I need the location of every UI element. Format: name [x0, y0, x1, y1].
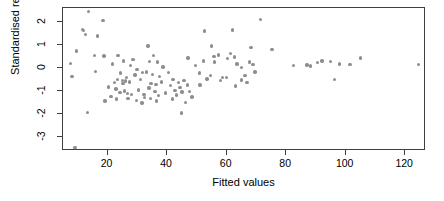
data-point: [164, 91, 167, 94]
data-point: [129, 64, 132, 67]
data-point: [209, 74, 212, 77]
data-point: [226, 57, 229, 60]
data-point: [142, 93, 145, 96]
data-point: [217, 53, 220, 56]
data-point: [149, 82, 152, 85]
data-point: [133, 73, 136, 76]
plot-area: [62, 7, 425, 150]
data-point: [203, 29, 206, 32]
x-tick-mark: [404, 150, 405, 155]
data-point: [175, 93, 178, 96]
data-point: [86, 111, 89, 114]
data-point: [169, 84, 172, 87]
data-point: [309, 64, 312, 67]
data-point: [178, 86, 181, 89]
data-point: [75, 49, 78, 52]
data-point: [118, 91, 121, 94]
data-point: [235, 62, 238, 65]
data-point: [122, 59, 125, 62]
y-tick-label: -2: [30, 108, 52, 118]
x-tick-mark: [285, 150, 286, 155]
y-tick-mark: [57, 90, 62, 91]
data-point: [160, 80, 163, 83]
data-point: [316, 61, 319, 64]
data-point: [119, 71, 122, 74]
data-point: [143, 96, 146, 99]
data-point: [171, 78, 174, 81]
data-point: [145, 70, 148, 73]
data-point: [253, 70, 256, 73]
data-point: [128, 80, 131, 83]
data-point: [154, 83, 157, 86]
data-point: [148, 60, 151, 63]
y-tick-label: -3: [30, 131, 52, 141]
data-point: [233, 55, 236, 58]
data-point: [173, 89, 176, 92]
x-tick-mark: [166, 150, 167, 155]
data-point: [320, 59, 323, 62]
y-tick-mark: [57, 67, 62, 68]
data-point: [259, 18, 262, 21]
x-tick-label: 80: [265, 157, 305, 169]
data-point: [153, 90, 156, 93]
x-tick-label: 40: [146, 157, 186, 169]
data-point: [180, 111, 183, 114]
data-point: [198, 71, 201, 74]
data-point: [126, 97, 129, 100]
data-point: [243, 74, 246, 77]
data-point: [213, 60, 216, 63]
data-point: [114, 87, 117, 90]
y-tick-mark: [57, 44, 62, 45]
data-point: [73, 146, 76, 149]
data-point: [231, 28, 234, 31]
data-point: [102, 54, 105, 57]
y-tick-label: 0: [30, 62, 52, 72]
data-point: [121, 82, 124, 85]
data-point: [251, 63, 254, 66]
x-axis-title: Fitted values: [62, 176, 425, 188]
y-tick-label: 1: [30, 39, 52, 49]
data-point: [186, 83, 189, 86]
data-point: [130, 93, 133, 96]
x-tick-mark: [107, 150, 108, 155]
data-point: [184, 101, 187, 104]
x-tick-label: 60: [206, 157, 246, 169]
data-point: [167, 71, 170, 74]
data-point: [93, 54, 96, 57]
data-point: [147, 86, 150, 89]
data-point: [248, 60, 251, 63]
data-point: [359, 56, 362, 59]
data-point: [113, 81, 116, 84]
data-point: [240, 78, 243, 81]
data-point: [205, 77, 208, 80]
data-point: [103, 99, 106, 102]
x-tick-mark: [345, 150, 346, 155]
data-point: [131, 58, 134, 61]
data-point: [182, 79, 185, 82]
data-point: [115, 97, 118, 100]
data-point: [333, 78, 336, 81]
data-point: [141, 71, 144, 74]
data-point: [116, 78, 119, 81]
data-point: [135, 68, 138, 71]
data-point: [107, 85, 110, 88]
data-point: [109, 95, 112, 98]
scatter-plot-figure: Fitted values Standardised residuals 204…: [0, 0, 444, 201]
data-point: [329, 60, 332, 63]
data-point: [137, 88, 140, 91]
data-point: [249, 46, 252, 49]
data-point: [212, 55, 215, 58]
data-point: [198, 83, 201, 86]
data-point: [225, 76, 228, 79]
data-point: [152, 54, 155, 57]
data-point: [82, 29, 85, 32]
x-tick-label: 120: [384, 157, 424, 169]
data-point: [270, 48, 273, 51]
y-tick-mark: [57, 136, 62, 137]
data-point: [156, 60, 159, 63]
data-point: [188, 90, 191, 93]
data-point: [96, 34, 99, 37]
data-point: [87, 10, 90, 13]
data-point: [292, 64, 295, 67]
data-point: [158, 75, 161, 78]
